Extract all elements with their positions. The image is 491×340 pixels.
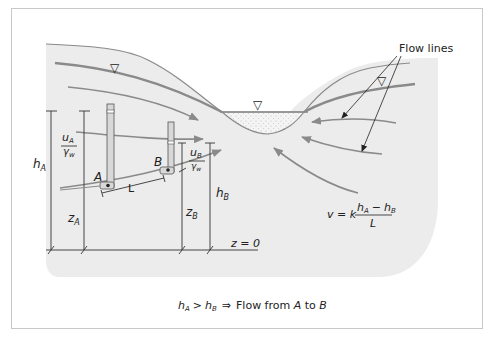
label-datum: z = 0: [230, 237, 260, 250]
figure-caption: hA>hB⇒Flow from A to B: [178, 299, 327, 313]
water-table-symbol-left: ▽: [110, 61, 120, 75]
label-point-b: B: [154, 155, 162, 169]
flow-lines-label: Flow lines: [399, 42, 453, 55]
label-ha: hA: [33, 157, 46, 173]
svg-text:L: L: [370, 217, 376, 230]
svg-text:v = k: v = k: [327, 208, 357, 221]
svg-text:hA−hB: hA−hB: [357, 201, 396, 215]
water-table-symbol-stream: ▽: [253, 98, 263, 112]
groundwater-flow-diagram: ▽ ▽ ▽ Flow lines: [0, 0, 491, 340]
label-point-a: A: [93, 170, 102, 184]
label-length-l: L: [128, 182, 135, 195]
point-a-marker: [106, 184, 110, 188]
water-table-symbol-right: ▽: [377, 74, 387, 88]
point-b-marker: [166, 168, 170, 172]
